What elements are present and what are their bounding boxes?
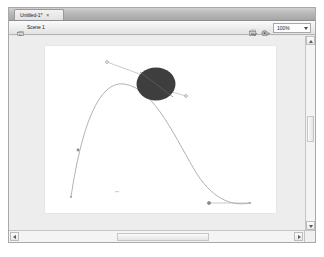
edit-bar: Scene 1 (9, 21, 315, 35)
scroll-right-button[interactable] (294, 232, 303, 241)
chevron-down-icon (309, 225, 313, 228)
scroll-up-button[interactable] (306, 36, 315, 45)
chevron-left-icon (13, 235, 16, 239)
work-area-pasteboard[interactable] (9, 36, 315, 230)
scene-name-label[interactable]: Scene 1 (27, 23, 45, 31)
vertical-scrollbar[interactable] (305, 36, 315, 230)
scene-icon (17, 24, 24, 31)
breadcrumb: Scene 1 (17, 23, 45, 31)
edit-bar-controls: 100% (249, 23, 311, 33)
chevron-right-icon (298, 235, 301, 239)
anchor-end-point[interactable] (249, 202, 251, 204)
anchor-start-point[interactable] (70, 196, 72, 198)
handle-upper-left-point[interactable] (106, 61, 109, 64)
close-icon[interactable]: × (46, 11, 49, 20)
horizontal-scrollbar-thumb[interactable] (117, 233, 209, 241)
horizontal-scrollbar[interactable] (9, 230, 315, 242)
chevron-down-icon[interactable] (304, 27, 308, 30)
scroll-down-button[interactable] (306, 221, 315, 230)
document-tab-label: Untitled-1* (20, 11, 42, 20)
application-window: Untitled-1* × Scene 1 (0, 0, 324, 257)
scrollbar-corner (304, 230, 315, 242)
motion-guide-path[interactable] (71, 84, 250, 204)
scroll-left-button[interactable] (10, 232, 19, 241)
zoom-level-combobox[interactable]: 100% (273, 23, 311, 33)
stage-canvas[interactable] (45, 46, 276, 213)
edit-scene-icon[interactable] (249, 24, 258, 33)
anchor-mid-left-point[interactable] (77, 149, 80, 152)
document-window: Untitled-1* × Scene 1 (8, 7, 316, 243)
handle-upper-right-point[interactable] (185, 95, 188, 98)
tween-marker (115, 191, 119, 192)
document-tab-untitled[interactable]: Untitled-1* × (14, 9, 64, 20)
handle-lower-right-point[interactable] (207, 201, 210, 204)
zoom-level-value: 100% (274, 24, 290, 32)
document-tab-bar: Untitled-1* × (9, 8, 315, 21)
edit-symbols-icon[interactable] (261, 24, 270, 33)
stage-artwork (45, 46, 276, 213)
chevron-up-icon (309, 40, 313, 43)
vertical-scrollbar-thumb[interactable] (307, 116, 314, 142)
